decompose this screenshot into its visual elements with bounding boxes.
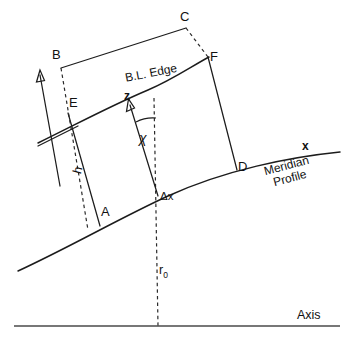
segment-b-e-h-dashed: [61, 68, 88, 230]
label-point-a: A: [101, 205, 110, 218]
r0-vertical-dashed-line: [154, 98, 158, 326]
chi-angle-arc: [136, 118, 156, 122]
label-coord-z: z: [124, 90, 130, 102]
diagram-canvas: C B F E A D B.L. Edge Meridian Profile x…: [0, 0, 343, 341]
label-point-f: F: [210, 50, 218, 63]
segment-f-d: [208, 57, 237, 170]
label-coord-x: x: [302, 140, 309, 152]
label-angle-chi: χ: [139, 131, 147, 145]
segment-c-f-dashed: [186, 28, 208, 57]
label-axis: Axis: [297, 309, 321, 322]
radius-r0-subscript: 0: [163, 270, 168, 280]
label-point-e: E: [69, 96, 78, 109]
h-direction-arrow-shaft: [40, 75, 60, 186]
label-point-d: D: [238, 160, 247, 173]
label-radius-r0: r0: [159, 264, 168, 279]
label-point-b: B: [52, 48, 61, 61]
label-delta-x: Δx: [160, 191, 173, 203]
label-point-c: C: [180, 10, 189, 23]
